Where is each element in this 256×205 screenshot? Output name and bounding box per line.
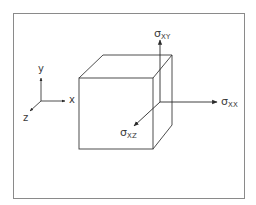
stress-arrows	[134, 40, 217, 126]
coordinate-axes	[30, 78, 65, 111]
sigma-xz-symbol: σ	[120, 126, 127, 139]
diagram-svg	[0, 0, 256, 205]
sigma-xy-label: σXY	[154, 28, 170, 39]
stress-element-diagram: y x z σXY σXX σXZ	[0, 0, 256, 205]
z-axis-label: z	[23, 113, 28, 123]
sigma-xz-label: σXZ	[120, 127, 137, 138]
sigma-xy-subscript: XY	[161, 33, 170, 41]
figure-frame	[14, 14, 245, 199]
sigma-xy-symbol: σ	[154, 27, 161, 40]
sigma-xx-label: σXX	[221, 96, 238, 107]
z-axis	[30, 101, 41, 111]
cube-top-face	[79, 55, 172, 78]
x-axis-label: x	[69, 95, 75, 105]
sigma-xz-subscript: XZ	[127, 132, 137, 140]
sigma-xx-subscript: XX	[228, 101, 238, 109]
sigma-xx-symbol: σ	[221, 95, 228, 108]
cube-front-face	[79, 78, 153, 149]
sigma-xz-arrow	[134, 102, 160, 126]
y-axis-label: y	[38, 64, 44, 74]
